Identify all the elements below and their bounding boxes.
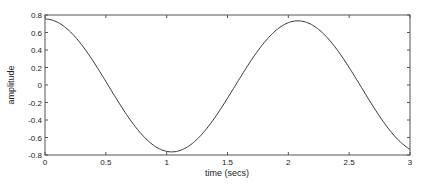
y-tick-label: -0.4 [28, 116, 42, 125]
y-tick-label: 0.8 [31, 11, 43, 20]
y-tick-label: -0.8 [28, 151, 42, 160]
y-tick-label: 0.4 [31, 46, 43, 55]
y-tick-label: 0 [38, 81, 43, 90]
x-tick-label: 2 [286, 158, 291, 167]
y-tick-label: -0.6 [28, 134, 42, 143]
x-tick-label: 2.5 [344, 158, 356, 167]
x-tick-label: 1 [164, 158, 169, 167]
x-axis-label: time (secs) [205, 168, 249, 178]
y-axis-label: amplitude [6, 65, 16, 104]
x-tick-label: 0.5 [100, 158, 112, 167]
x-tick-label: 3 [408, 158, 413, 167]
x-tick-label: 1.5 [222, 158, 234, 167]
y-tick-label: -0.2 [28, 99, 42, 108]
x-tick-label: 0 [43, 158, 48, 167]
plot-area [45, 15, 410, 155]
line-chart: 00.511.522.53 -0.8-0.6-0.4-0.200.20.40.6… [0, 0, 433, 187]
y-tick-label: 0.2 [31, 64, 43, 73]
y-tick-label: 0.6 [31, 29, 43, 38]
